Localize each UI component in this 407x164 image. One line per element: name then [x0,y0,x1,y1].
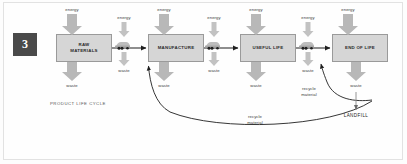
energy-label-6: energy [301,15,314,20]
waste-label-7: waste [350,83,361,88]
landfill-label: LANDFILL [344,113,369,118]
waste-arrow-small-1 [119,52,130,66]
energy-label-5: energy [249,7,262,12]
recycle-curve-short [321,64,372,101]
waste-label-2: waste [118,68,129,73]
waste-label-1: waste [66,83,77,88]
waste-arrow-small-2 [209,52,220,66]
truck-icon-2 [205,42,220,50]
waste-arrow-large-4 [346,62,366,81]
truck-icon-1 [115,42,130,50]
energy-label-1: energy [65,7,78,12]
waste-arrow-large-3 [246,62,266,81]
energy-arrow-large-4 [338,14,358,35]
waste-label-6: waste [302,68,313,73]
truck-icon-3 [299,42,314,50]
recycle-label-long: recycle material [238,114,272,125]
energy-arrow-large-2 [154,14,174,35]
waste-label-4: waste [208,68,219,73]
waste-arrow-small-3 [303,52,314,66]
energy-label-4: energy [207,15,220,20]
energy-label-3: energy [157,7,170,12]
energy-arrow-large-3 [246,14,266,35]
energy-label-2: energy [117,15,130,20]
recycle-label-short-line1: recycle [302,86,316,91]
recycle-label-long-line1: recycle [248,114,262,119]
energy-arrow-small-1 [119,22,130,37]
energy-arrow-small-2 [209,22,220,37]
energy-arrow-small-3 [303,22,314,37]
waste-label-5: waste [250,83,261,88]
recycle-label-short-line2: material [301,92,317,97]
waste-label-3: waste [158,83,169,88]
recycle-label-long-line2: material [247,120,263,125]
waste-arrow-large-2 [154,62,174,81]
recycle-label-short: recycle material [292,86,326,97]
energy-arrow-large-1 [62,14,82,35]
energy-label-7: energy [341,7,354,12]
diagram-vector-layer [0,0,407,164]
waste-arrow-large-1 [62,62,82,81]
diagram-caption: PRODUCT LIFE CYCLE [50,101,106,106]
life-cycle-diagram: 3 RAWMATERIALS MANUFACTURE USEFUL LIFE E… [0,0,407,164]
